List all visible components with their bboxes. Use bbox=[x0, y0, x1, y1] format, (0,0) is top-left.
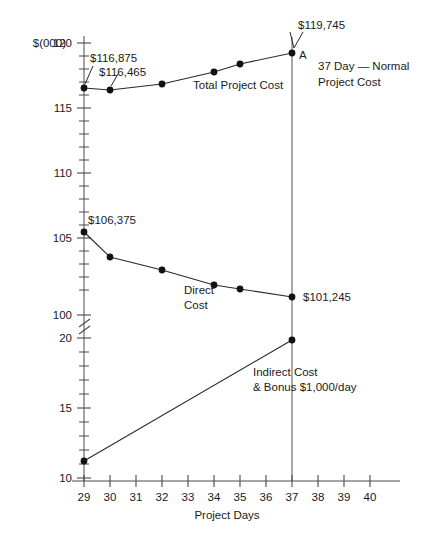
indirect-cost-series-label-line-2: & Bonus $1,000/day bbox=[253, 381, 357, 393]
y-tick-label-100: 100 bbox=[53, 309, 72, 321]
x-tick-label-33: 33 bbox=[182, 491, 195, 503]
series-indirect-cost-and-bonus bbox=[81, 337, 296, 465]
direct-cost-series-label-line-1: Direct bbox=[184, 284, 215, 296]
x-tick-label-40: 40 bbox=[364, 491, 377, 503]
x-tick-label-37: 37 bbox=[286, 491, 299, 503]
point-a-label: A bbox=[299, 49, 307, 61]
data-point bbox=[81, 229, 88, 236]
direct-cost-label-106375: $106,375 bbox=[88, 214, 136, 226]
data-point bbox=[159, 81, 166, 88]
data-point bbox=[107, 254, 114, 261]
data-point bbox=[159, 267, 166, 274]
direct-cost-series-label-line-2: Cost bbox=[184, 299, 208, 311]
x-axis-title: Project Days bbox=[194, 509, 259, 521]
y-axis-unit-label: $(000) bbox=[33, 37, 66, 49]
total-cost-label-116875: $116,875 bbox=[90, 52, 137, 64]
x-tick-label-31: 31 bbox=[130, 491, 143, 503]
data-point bbox=[289, 294, 296, 301]
data-point bbox=[289, 50, 296, 57]
total-cost-label-116465: $116,465 bbox=[99, 66, 146, 78]
y-tick-label-115: 115 bbox=[54, 102, 72, 114]
x-tick-label-39: 39 bbox=[338, 491, 351, 503]
data-point bbox=[237, 286, 244, 293]
data-point bbox=[237, 61, 244, 68]
x-tick-label-38: 38 bbox=[312, 491, 325, 503]
direct-cost-label-101245: $101,245 bbox=[303, 291, 351, 303]
normal-project-cost-note-line-2: Project Cost bbox=[318, 76, 381, 88]
y-tick-label-15: 15 bbox=[59, 402, 72, 414]
data-point bbox=[81, 85, 88, 92]
data-point bbox=[107, 87, 114, 94]
x-tick-label-36: 36 bbox=[260, 491, 273, 503]
x-tick-label-30: 30 bbox=[104, 491, 117, 503]
chart-canvas: 120 115 110 105 100 20 15 10 $(000) 29 3… bbox=[0, 0, 425, 537]
y-tick-label-20: 20 bbox=[59, 332, 72, 344]
data-point bbox=[211, 69, 218, 76]
y-tick-label-105: 105 bbox=[53, 232, 72, 244]
normal-project-cost-note-line-1: 37 Day — Normal bbox=[318, 60, 409, 72]
data-point bbox=[81, 458, 88, 465]
total-cost-label-119745: $119,745 bbox=[298, 19, 345, 31]
indirect-cost-line bbox=[84, 340, 292, 461]
indirect-cost-series-label-line-1: Indirect Cost bbox=[253, 366, 318, 378]
x-tick-label-29: 29 bbox=[78, 491, 91, 503]
x-tick-label-32: 32 bbox=[156, 491, 169, 503]
x-tick-label-34: 34 bbox=[208, 491, 221, 503]
y-tick-label-10: 10 bbox=[59, 472, 72, 484]
cost-vs-project-days-chart: 120 115 110 105 100 20 15 10 $(000) 29 3… bbox=[0, 0, 425, 537]
x-tick-label-35: 35 bbox=[234, 491, 247, 503]
total-project-cost-series-label: Total Project Cost bbox=[193, 79, 284, 91]
data-point bbox=[289, 337, 296, 344]
y-tick-label-110: 110 bbox=[54, 167, 72, 179]
